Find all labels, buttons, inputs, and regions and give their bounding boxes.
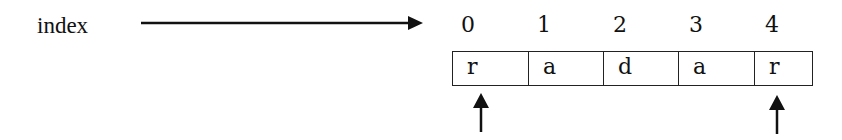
array-cell-2: d [604, 52, 679, 85]
index-4: 4 [762, 12, 782, 37]
index-arrow-icon [141, 16, 423, 30]
index-2: 2 [610, 12, 630, 37]
index-3: 3 [686, 12, 706, 37]
array-cell-1: a [529, 52, 604, 85]
pointer-arrow-left-icon [473, 93, 489, 132]
array-cell-4: r [755, 52, 812, 85]
index-0: 0 [458, 12, 478, 37]
array-cell-3: a [679, 52, 755, 85]
pointer-arrow-right-icon [769, 95, 785, 134]
array-cell-0: r [453, 52, 529, 85]
index-1: 1 [534, 12, 554, 37]
char-array: r a d a r [452, 51, 813, 86]
